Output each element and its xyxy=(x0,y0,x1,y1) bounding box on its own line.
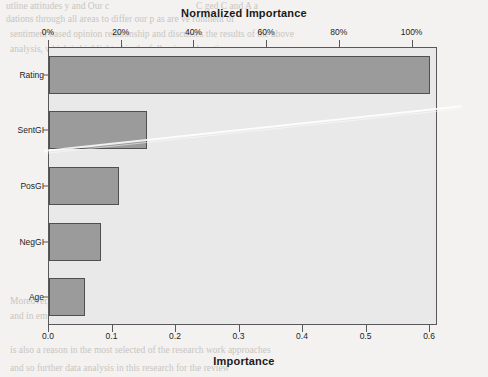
importance-tick-label: 0.5 xyxy=(360,331,372,341)
category-label-sentgi: SentGI xyxy=(18,125,44,135)
importance-tick-mark xyxy=(48,325,49,332)
normalized-tick-mark xyxy=(193,40,194,47)
normalized-tick-label: 80% xyxy=(330,27,347,37)
importance-tick-mark xyxy=(429,325,430,332)
bar-sentgi xyxy=(49,111,147,149)
importance-tick-label: 0.0 xyxy=(42,331,54,341)
importance-tick-label: 0.2 xyxy=(169,331,181,341)
importance-tick-mark xyxy=(302,325,303,332)
normalized-tick-mark xyxy=(48,40,49,47)
importance-tick-mark xyxy=(175,325,176,332)
category-tick-mark xyxy=(43,130,49,131)
bar-posgi xyxy=(49,167,119,205)
importance-tick-label: 0.1 xyxy=(106,331,118,341)
importance-bar-chart: Normalized Importance 0%20%40%60%80%100%… xyxy=(0,0,488,377)
importance-tick-label: 0.3 xyxy=(233,331,245,341)
importance-tick-label: 0.6 xyxy=(423,331,435,341)
normalized-tick-mark xyxy=(121,40,122,47)
bar-age xyxy=(49,278,85,316)
category-tick-mark xyxy=(43,241,49,242)
category-tick-mark xyxy=(43,297,49,298)
normalized-tick-mark xyxy=(266,40,267,47)
normalized-tick-label: 0% xyxy=(42,27,54,37)
importance-tick-mark xyxy=(112,325,113,332)
normalized-tick-mark xyxy=(339,40,340,47)
category-label-posgi: PosGI xyxy=(20,181,44,191)
bar-rating xyxy=(49,56,430,94)
importance-tick-mark xyxy=(239,325,240,332)
category-label-age: Age xyxy=(29,292,44,302)
bar-neggi xyxy=(49,223,101,261)
importance-tick-label: 0.4 xyxy=(296,331,308,341)
normalized-tick-label: 40% xyxy=(185,27,202,37)
bottom-axis-title: Importance xyxy=(0,355,488,367)
category-label-neggi: NegGI xyxy=(19,237,44,247)
normalized-tick-mark xyxy=(412,40,413,47)
normalized-tick-label: 20% xyxy=(112,27,129,37)
category-tick-mark xyxy=(43,186,49,187)
importance-tick-mark xyxy=(366,325,367,332)
normalized-tick-label: 100% xyxy=(401,27,423,37)
top-axis-title: Normalized Importance xyxy=(0,7,488,19)
category-label-rating: Rating xyxy=(19,70,44,80)
plot-area xyxy=(48,47,437,325)
normalized-tick-label: 60% xyxy=(258,27,275,37)
category-tick-mark xyxy=(43,74,49,75)
